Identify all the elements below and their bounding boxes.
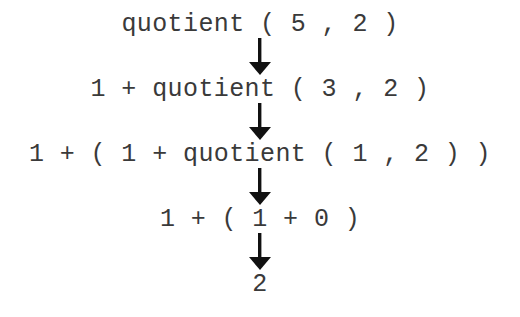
trace-step-4: 1 + ( 1 + 0 ) bbox=[160, 206, 360, 233]
trace-step-3: 1 + ( 1 + quotient ( 1 , 2 ) ) bbox=[29, 141, 491, 168]
evaluation-trace-diagram: quotient ( 5 , 2 ) 1 + quotient ( 3 , 2 … bbox=[0, 0, 520, 317]
down-arrow-icon bbox=[247, 233, 273, 271]
trace-step-5: 2 bbox=[252, 271, 267, 298]
down-arrow-icon bbox=[247, 168, 273, 206]
down-arrow-icon bbox=[247, 38, 273, 76]
down-arrow-icon bbox=[247, 103, 273, 141]
trace-step-2: 1 + quotient ( 3 , 2 ) bbox=[91, 76, 430, 103]
trace-step-1: quotient ( 5 , 2 ) bbox=[121, 11, 398, 38]
